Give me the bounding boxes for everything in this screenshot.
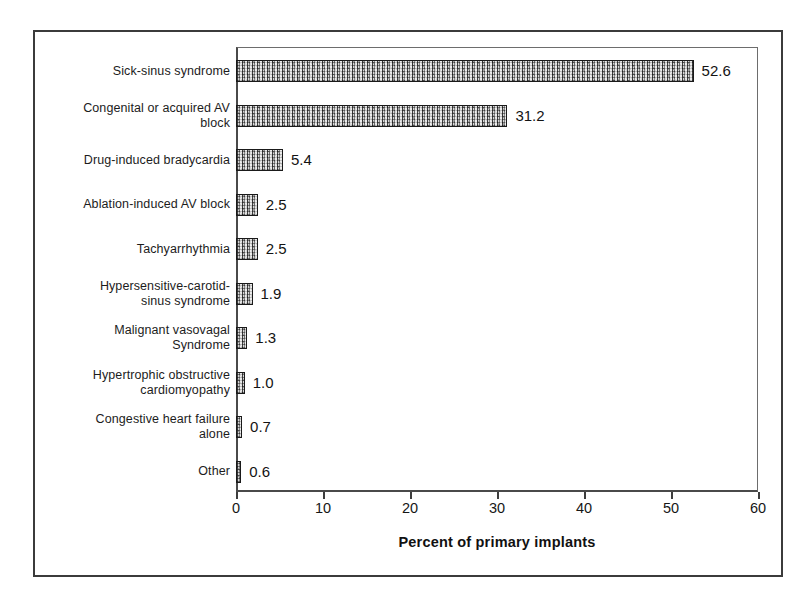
y-axis-category-labels: Sick-sinus syndromeCongenital or acquire… <box>40 47 230 492</box>
x-axis-tick-label: 0 <box>216 500 256 516</box>
bar <box>236 194 258 216</box>
category-label: Sick-sinus syndrome <box>40 64 230 79</box>
x-axis-tick-label: 30 <box>477 500 517 516</box>
category-label: Hypertrophic obstructivecardiomyopathy <box>40 368 230 398</box>
bar-value-label: 52.6 <box>702 60 731 82</box>
x-axis-title: Percent of primary implants <box>236 534 758 550</box>
category-label-line: Other <box>198 464 230 478</box>
category-label-line: Ablation-induced AV block <box>83 197 230 211</box>
x-axis-tick-label: 10 <box>303 500 343 516</box>
bar <box>236 238 258 260</box>
x-axis-tick-label: 40 <box>564 500 604 516</box>
bar <box>236 283 253 305</box>
category-label-line: cardiomyopathy <box>140 383 230 397</box>
category-label: Hypersensitive-carotid-sinus syndrome <box>40 279 230 309</box>
chart-figure: Sick-sinus syndromeCongenital or acquire… <box>0 0 808 608</box>
x-axis-tick <box>671 492 673 499</box>
category-label-line: Syndrome <box>172 338 230 352</box>
category-label-line: Hypertrophic obstructive <box>93 368 230 382</box>
category-label: Drug-induced bradycardia <box>40 153 230 168</box>
bar <box>236 372 245 394</box>
bar-value-label: 2.5 <box>266 194 287 216</box>
category-label-line: alone <box>199 427 230 441</box>
bar-value-label: 1.9 <box>261 283 282 305</box>
x-axis-tick <box>323 492 325 499</box>
bar-value-label: 31.2 <box>515 105 544 127</box>
category-label-line: block <box>200 116 230 130</box>
category-label: Tachyarrhythmia <box>40 242 230 257</box>
category-label: Congenital or acquired AVblock <box>40 101 230 131</box>
bar <box>236 60 694 82</box>
x-axis-tick <box>584 492 586 499</box>
bar <box>236 461 241 483</box>
x-axis-tick-label: 20 <box>390 500 430 516</box>
bar-value-label: 5.4 <box>291 149 312 171</box>
bars-layer: 52.631.25.42.52.51.91.31.00.70.6 <box>236 47 758 492</box>
category-label: Ablation-induced AV block <box>40 197 230 212</box>
x-axis-tick <box>236 492 238 499</box>
bar-value-label: 0.7 <box>250 416 271 438</box>
bar <box>236 327 247 349</box>
category-label-line: Malignant vasovagal <box>114 323 230 337</box>
bar-value-label: 1.0 <box>253 372 274 394</box>
bar <box>236 149 283 171</box>
category-label: Malignant vasovagalSyndrome <box>40 323 230 353</box>
bar-value-label: 2.5 <box>266 238 287 260</box>
category-label-line: Tachyarrhythmia <box>137 242 230 256</box>
bar-value-label: 0.6 <box>249 461 270 483</box>
bar <box>236 105 507 127</box>
category-label-line: Drug-induced bradycardia <box>84 153 230 167</box>
category-label: Congestive heart failurealone <box>40 412 230 442</box>
category-label-line: Hypersensitive-carotid- <box>100 279 230 293</box>
x-axis-tick <box>497 492 499 499</box>
x-axis-tick-label: 60 <box>738 500 778 516</box>
category-label-line: Congenital or acquired AV <box>83 101 230 115</box>
x-axis-tick <box>410 492 412 499</box>
bar <box>236 416 242 438</box>
bar-value-label: 1.3 <box>255 327 276 349</box>
x-axis-tick <box>758 492 760 499</box>
x-axis-tick-label: 50 <box>651 500 691 516</box>
category-label-line: Sick-sinus syndrome <box>113 64 230 78</box>
category-label-line: Congestive heart failure <box>96 412 230 426</box>
category-label: Other <box>40 464 230 479</box>
category-label-line: sinus syndrome <box>141 294 230 308</box>
